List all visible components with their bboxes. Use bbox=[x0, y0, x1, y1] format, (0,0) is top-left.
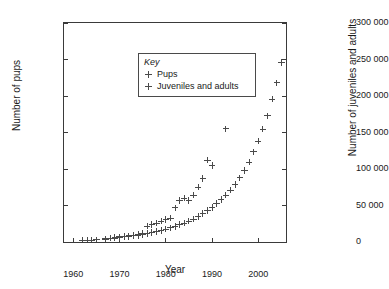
y-axis-right-tick-label: 100 000 bbox=[356, 164, 389, 173]
x-axis-tick-label: 1970 bbox=[100, 270, 140, 279]
legend-label-juveniles-adults: Juveniles and adults bbox=[157, 81, 239, 92]
legend-title: Key bbox=[144, 57, 250, 67]
legend-entry-juveniles-adults: Juveniles and adults bbox=[144, 81, 250, 92]
y-axis-right-tick-label: 0 bbox=[356, 237, 361, 246]
y-axis-right-title: Number of juveniles and adults bbox=[347, 13, 358, 163]
y-axis-right-tick-label: 50 000 bbox=[356, 201, 384, 210]
y-axis-right-tick-label: 200 000 bbox=[356, 91, 389, 100]
chart-legend: Key Pups Juveniles and adults bbox=[138, 53, 256, 97]
y-axis-left-title: Number of pups bbox=[11, 36, 22, 156]
x-axis-tick-label: 1980 bbox=[146, 270, 186, 279]
y-axis-right-tick-label: 250 000 bbox=[356, 55, 389, 64]
plus-marker-icon bbox=[144, 70, 153, 79]
legend-entry-pups: Pups bbox=[144, 69, 250, 80]
y-axis-right-tick-label: 150 000 bbox=[356, 128, 389, 137]
plus-marker-icon bbox=[144, 82, 153, 91]
legend-label-pups: Pups bbox=[157, 69, 178, 80]
x-axis-tick-label: 2000 bbox=[238, 270, 278, 279]
x-axis-tick-label: 1960 bbox=[53, 270, 93, 279]
y-axis-right-tick-label: 300 000 bbox=[356, 18, 389, 27]
plot-area: 0500010 00015 00020 00025 00030 000050 0… bbox=[63, 22, 287, 243]
x-axis-tick-label: 1990 bbox=[192, 270, 232, 279]
